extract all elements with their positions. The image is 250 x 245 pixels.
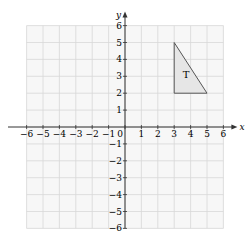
x-tick-label: −6 xyxy=(20,129,34,139)
x-tick-label: 5 xyxy=(204,129,210,139)
y-tick-label: 5 xyxy=(116,38,122,48)
y-axis-label: y xyxy=(115,10,122,20)
x-tick-label: 6 xyxy=(221,129,227,139)
x-tick-label: 3 xyxy=(171,129,177,139)
x-axis-label: x xyxy=(239,122,244,132)
x-tick-label: −3 xyxy=(69,129,83,139)
x-axis-arrow-icon xyxy=(231,125,237,130)
x-tick-label: 4 xyxy=(188,129,194,139)
y-tick-label: −4 xyxy=(109,190,123,200)
y-tick-label: −1 xyxy=(109,139,122,149)
shape-label: T xyxy=(183,69,190,80)
y-tick-label: 1 xyxy=(116,105,122,115)
x-tick-label: −5 xyxy=(36,129,50,139)
x-tick-label: −2 xyxy=(86,129,99,139)
y-axis-arrow-icon xyxy=(123,12,128,18)
x-tick-label: −1 xyxy=(102,129,115,139)
y-tick-label: 2 xyxy=(116,88,122,98)
y-tick-label: −3 xyxy=(109,173,123,183)
y-tick-label: −2 xyxy=(109,156,122,166)
x-tick-label: −4 xyxy=(53,129,67,139)
y-tick-label: 6 xyxy=(116,21,122,31)
x-tick-label: 0 xyxy=(117,129,123,139)
y-tick-label: 4 xyxy=(116,54,122,64)
y-tick-label: −6 xyxy=(109,223,123,233)
coordinate-grid: Txy−6−5−4−3−2−10123456−6−5−4−3−2−1123456 xyxy=(0,0,250,245)
x-tick-label: 2 xyxy=(155,129,161,139)
y-tick-label: 3 xyxy=(116,71,122,81)
y-tick-label: −5 xyxy=(109,207,123,217)
x-tick-label: 1 xyxy=(139,129,145,139)
